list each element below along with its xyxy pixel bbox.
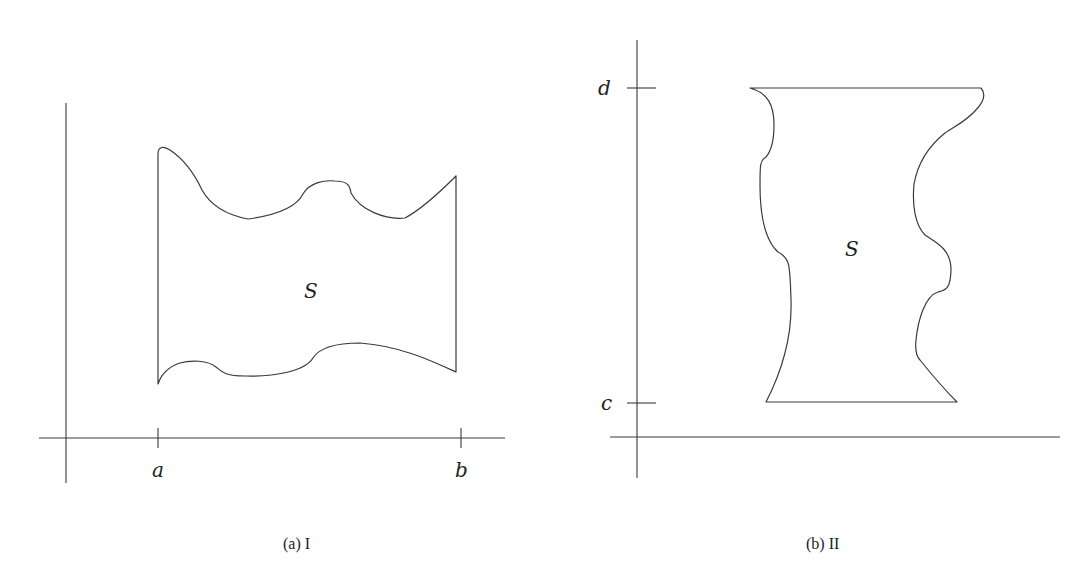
figure: a b S (a) I d c S (b) II <box>0 0 1087 584</box>
panel-b: d c S (b) II <box>598 40 1060 553</box>
region-label: S <box>845 237 859 261</box>
region-s-boundary <box>750 88 984 402</box>
caption-a: (a) I <box>283 535 310 553</box>
caption-b: (b) II <box>806 535 839 553</box>
tick-label-d: d <box>598 76 611 100</box>
tick-label-b: b <box>455 458 468 482</box>
tick-label-c: c <box>601 391 612 415</box>
panel-a: a b S (a) I <box>39 103 505 553</box>
region-label: S <box>304 279 318 303</box>
tick-label-a: a <box>152 458 164 482</box>
region-s-boundary <box>158 147 456 384</box>
